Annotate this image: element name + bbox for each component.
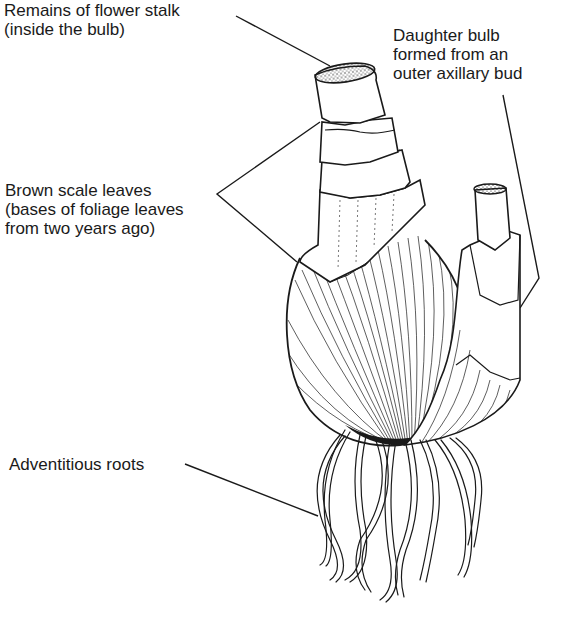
- stalk-tiers: [315, 66, 410, 198]
- label-line: outer axillary bud: [393, 64, 522, 83]
- label-line: (bases of foliage leaves: [5, 200, 184, 219]
- label-flower-stalk: Remains of flower stalk (inside the bulb…: [4, 1, 180, 39]
- bulb-illustration: [0, 0, 564, 617]
- label-line: Remains of flower stalk: [4, 1, 180, 20]
- leader-scale-leaves: [217, 122, 320, 262]
- leader-roots: [185, 464, 318, 516]
- label-line: formed from an: [393, 45, 522, 64]
- label-line: from two years ago): [5, 219, 184, 238]
- leader-flower-stalk: [236, 16, 330, 66]
- label-roots: Adventitious roots: [9, 455, 144, 474]
- label-line: Brown scale leaves: [5, 181, 184, 200]
- label-scale-leaves: Brown scale leaves (bases of foliage lea…: [5, 181, 184, 238]
- adventitious-roots: [317, 430, 482, 602]
- label-daughter-bulb: Daughter bulb formed from an outer axill…: [393, 26, 522, 83]
- label-line: (inside the bulb): [4, 20, 180, 39]
- daughter-bulb: [405, 184, 520, 445]
- label-line: Adventitious roots: [9, 455, 144, 474]
- label-line: Daughter bulb: [393, 26, 522, 45]
